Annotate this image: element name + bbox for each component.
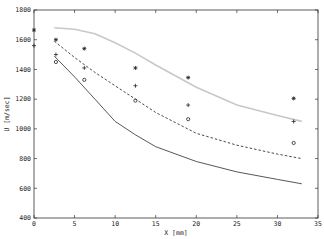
y-axis-label: U [m/sec] (3, 96, 11, 131)
star-marker (82, 47, 86, 51)
circle-marker (54, 60, 57, 63)
circle-marker (292, 141, 295, 144)
plus-marker (32, 44, 36, 48)
star-marker (54, 38, 58, 42)
x-tick-label: 0 (32, 220, 36, 228)
x-axis-label: X [mm] (164, 229, 187, 237)
x-tick-label: 20 (192, 220, 200, 228)
x-tick-label: 35 (314, 220, 322, 228)
star-marker (133, 66, 137, 70)
x-tick-label: 15 (152, 220, 160, 228)
y-tick-label: 1000 (15, 125, 31, 133)
chart-canvas: 0510152025303540060080010001200140016001… (0, 0, 324, 239)
x-tick-label: 30 (274, 220, 282, 228)
circle-marker (83, 78, 86, 81)
axes: 0510152025303540060080010001200140016001… (15, 6, 322, 228)
y-tick-label: 1200 (15, 95, 31, 103)
x-tick-label: 25 (233, 220, 241, 228)
star-marker (32, 28, 36, 32)
plus-marker (186, 103, 190, 107)
velocity-chart: 0510152025303540060080010001200140016001… (0, 0, 324, 239)
y-tick-label: 800 (19, 155, 31, 163)
lower-curve (54, 56, 301, 184)
y-tick-label: 1400 (15, 66, 31, 74)
star-marker (292, 96, 296, 100)
series-layer (32, 28, 302, 184)
upper-curve (54, 28, 301, 122)
y-tick-label: 400 (19, 214, 31, 222)
star-marker (186, 76, 190, 80)
y-tick-label: 1800 (15, 6, 31, 14)
plot-frame (34, 10, 318, 218)
circle-marker (187, 118, 190, 121)
y-tick-label: 600 (19, 185, 31, 193)
middle-curve (54, 41, 301, 158)
x-tick-label: 5 (73, 220, 77, 228)
plus-marker (133, 84, 137, 88)
x-tick-label: 10 (111, 220, 119, 228)
plus-marker (82, 66, 86, 70)
y-tick-label: 1600 (15, 36, 31, 44)
